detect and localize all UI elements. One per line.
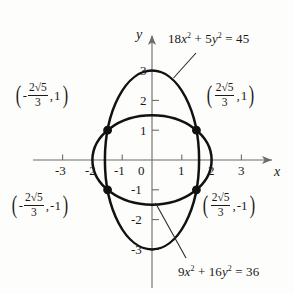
graph-canvas <box>0 0 294 294</box>
coord-tl-num-root: 5 <box>41 81 47 93</box>
intersection-dot-top-left <box>103 126 112 135</box>
conic-intersection-figure: -3 -2 -1 1 2 3 0 3 2 1 -1 -2 -3 x y 18x2… <box>0 0 294 294</box>
y-tick-label-2: 2 <box>140 94 147 107</box>
coord-tl-comma: , <box>50 89 53 102</box>
equation-label-wide-ellipse: 9x2 + 16y2 = 36 <box>178 265 259 278</box>
eq2-coef1: 9 <box>178 264 185 279</box>
y-tick-label--3: -3 <box>131 243 142 256</box>
coord-br-num-root: 5 <box>224 191 230 203</box>
x-tick-label-3: 3 <box>238 164 245 177</box>
coord-br-denominator: 3 <box>217 207 225 219</box>
y-tick-label--2: -2 <box>131 213 142 226</box>
x-tick-label-1: 1 <box>178 164 185 177</box>
open-paren-icon: ( <box>203 195 208 216</box>
y-axis-label: y <box>136 28 142 42</box>
coord-label-top-right: ( 2√5 3 , 1 ) <box>205 82 256 109</box>
coord-tr-comma: , <box>236 89 239 102</box>
eq1-plus: + <box>191 31 205 46</box>
coord-label-bottom-right: ( 2√5 3 , - 1 ) <box>201 192 256 219</box>
eq1-equals: = <box>222 31 236 46</box>
x-axis-label: x <box>274 165 280 179</box>
coord-bl-num-root: 5 <box>37 191 43 203</box>
coord-tr-numerator: 2√5 <box>215 82 235 94</box>
eq1-coef2: 5 <box>205 31 212 46</box>
eq1-coef1: 18 <box>168 31 181 46</box>
coord-tr-fraction: 2√5 3 <box>215 82 235 109</box>
coord-bl-denominator: 3 <box>30 207 38 219</box>
coord-br-y: 1 <box>241 199 248 212</box>
open-paren-icon: ( <box>12 195 17 216</box>
open-paren-icon: ( <box>16 85 21 106</box>
close-paren-icon: ) <box>62 85 67 106</box>
coord-bl-fraction: 2√5 3 <box>24 192 44 219</box>
intersection-dot-bottom-right <box>192 185 201 194</box>
coord-tr-y: 1 <box>241 89 248 102</box>
equation-label-tall-ellipse: 18x2 + 5y2 = 45 <box>168 32 249 45</box>
coord-tl-denominator: 3 <box>34 97 42 109</box>
coord-tr-denominator: 3 <box>221 97 229 109</box>
coord-label-bottom-left: ( - 2√5 3 , - 1 ) <box>10 192 70 219</box>
eq2-equals: = <box>232 264 246 279</box>
x-tick-label-2: 2 <box>208 164 215 177</box>
coord-tl-y: 1 <box>54 89 61 102</box>
coord-tl-numerator: 2√5 <box>28 82 48 94</box>
intersection-dot-bottom-left <box>103 185 112 194</box>
x-tick-label--2: -2 <box>85 164 96 177</box>
coord-bl-numerator: 2√5 <box>24 192 44 204</box>
eq2-coef2: 16 <box>209 264 222 279</box>
coord-tr-num-root: 5 <box>228 81 234 93</box>
close-paren-icon: ) <box>63 195 68 216</box>
eq2-rhs: 36 <box>246 264 259 279</box>
coord-bl-y: 1 <box>54 199 61 212</box>
coord-br-comma: , <box>232 199 235 212</box>
coord-br-numerator: 2√5 <box>211 192 231 204</box>
leader-line-tall-ellipse <box>174 53 197 78</box>
coord-label-top-left: ( - 2√5 3 , 1 ) <box>14 82 69 109</box>
origin-label: 0 <box>138 164 145 177</box>
x-tick-label--1: -1 <box>114 164 125 177</box>
coord-br-fraction: 2√5 3 <box>211 192 231 219</box>
y-tick-label--1: -1 <box>131 183 142 196</box>
coord-tl-fraction: 2√5 3 <box>28 82 48 109</box>
close-paren-icon: ) <box>249 195 254 216</box>
coord-tl-xsign: - <box>23 89 27 102</box>
open-paren-icon: ( <box>207 85 212 106</box>
y-tick-label-1: 1 <box>140 124 147 137</box>
intersection-dot-top-right <box>192 126 201 135</box>
eq2-plus: + <box>195 264 209 279</box>
coord-bl-comma: , <box>46 199 49 212</box>
close-paren-icon: ) <box>249 85 254 106</box>
x-tick-label--3: -3 <box>55 164 66 177</box>
y-tick-label-3: 3 <box>140 64 147 77</box>
coord-bl-xsign: - <box>19 199 23 212</box>
eq1-rhs: 45 <box>236 31 249 46</box>
